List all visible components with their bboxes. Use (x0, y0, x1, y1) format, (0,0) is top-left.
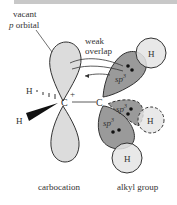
hydrogen-top-label: H (148, 49, 155, 59)
overlap-arrowhead (85, 74, 89, 78)
electron-dot (111, 130, 115, 134)
electron-dot (130, 68, 134, 72)
positive-charge: + (70, 89, 75, 99)
electron-dot (126, 112, 130, 116)
hydrogen-bottom-label: H (124, 154, 131, 164)
hyperconjugation-diagram: vacant p orbital weak overlap C + C H H … (0, 0, 177, 205)
weak-label: weak (85, 36, 104, 46)
hydrogen-dashed-label: H (26, 86, 33, 96)
p-orbital-bottom-lobe (51, 106, 79, 162)
hydrogen-right-label: H (147, 116, 154, 126)
p-orbital-label: p orbital (8, 20, 40, 30)
overlap-label: overlap (85, 46, 112, 56)
hydrogen-wedge-label: H (16, 116, 23, 126)
vacant-label: vacant (13, 9, 37, 19)
electron-dot (129, 107, 133, 111)
electron-dot (126, 64, 130, 68)
caption-carbocation: carbocation (38, 182, 80, 192)
carbocation-carbon: C (61, 97, 68, 108)
caption-alkyl-group: alkyl group (117, 182, 159, 192)
wedge-bond (26, 103, 58, 121)
hashed-bond (37, 90, 55, 99)
alkyl-carbon: C (96, 97, 103, 108)
electron-dot (117, 128, 121, 132)
p-orbital-top-lobe (50, 42, 81, 101)
vacant-pointer-line (36, 30, 52, 52)
